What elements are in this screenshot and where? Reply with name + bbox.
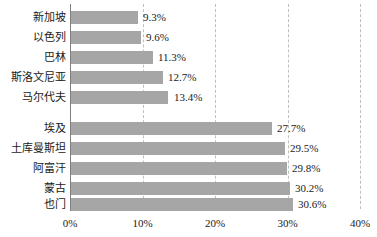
value-label-singapore: 9.3% xyxy=(143,10,166,24)
xtick-0: 0% xyxy=(50,216,90,230)
bar-chart: 新加坡 9.3% 以色列 9.6% 巴林 11.3% 斯洛文尼亚 12.7% 马… xyxy=(0,0,377,237)
category-label-mongolia: 蒙古 xyxy=(0,181,66,195)
bar-slovenia xyxy=(71,71,163,84)
table-row: 蒙古 30.2% xyxy=(0,182,377,195)
value-label-israel: 9.6% xyxy=(146,30,169,44)
category-label-afghanistan: 阿富汗 xyxy=(0,161,66,175)
bar-egypt xyxy=(71,122,272,135)
value-label-mongolia: 30.2% xyxy=(295,181,323,195)
bar-afghanistan xyxy=(71,162,287,175)
xtick-30: 30% xyxy=(268,216,308,230)
category-label-slovenia: 斯洛文尼亚 xyxy=(0,70,66,84)
value-label-egypt: 27.7% xyxy=(277,121,305,135)
bar-israel xyxy=(71,31,141,44)
table-row: 巴林 11.3% xyxy=(0,51,377,64)
category-label-turkmenistan: 土库曼斯坦 xyxy=(0,141,66,155)
bar-turkmenistan xyxy=(71,142,285,155)
bar-mongolia xyxy=(71,182,290,195)
bar-singapore xyxy=(71,11,138,24)
table-row: 阿富汗 29.8% xyxy=(0,162,377,175)
category-label-yemen: 也门 xyxy=(0,197,66,211)
table-row: 土库曼斯坦 29.5% xyxy=(0,142,377,155)
xtick-20: 20% xyxy=(195,216,235,230)
xtick-40: 40% xyxy=(340,216,377,230)
value-label-yemen: 30.6% xyxy=(298,197,326,211)
value-label-turkmenistan: 29.5% xyxy=(290,141,318,155)
category-label-singapore: 新加坡 xyxy=(0,10,66,24)
category-label-maldives: 马尔代夫 xyxy=(0,90,66,104)
category-label-bahrain: 巴林 xyxy=(0,50,66,64)
table-row: 以色列 9.6% xyxy=(0,31,377,44)
value-label-maldives: 13.4% xyxy=(174,90,202,104)
bar-maldives xyxy=(71,91,168,104)
bar-yemen xyxy=(71,198,293,211)
table-row: 斯洛文尼亚 12.7% xyxy=(0,71,377,84)
table-row: 埃及 27.7% xyxy=(0,122,377,135)
value-label-afghanistan: 29.8% xyxy=(292,161,320,175)
value-label-slovenia: 12.7% xyxy=(168,70,196,84)
table-row: 也门 30.6% xyxy=(0,198,377,211)
value-label-bahrain: 11.3% xyxy=(158,50,186,64)
category-label-egypt: 埃及 xyxy=(0,121,66,135)
xtick-10: 10% xyxy=(123,216,163,230)
category-label-israel: 以色列 xyxy=(0,30,66,44)
table-row: 新加坡 9.3% xyxy=(0,11,377,24)
plot-area: 新加坡 9.3% 以色列 9.6% 巴林 11.3% 斯洛文尼亚 12.7% 马… xyxy=(0,0,377,211)
table-row: 马尔代夫 13.4% xyxy=(0,91,377,104)
bar-bahrain xyxy=(71,51,153,64)
